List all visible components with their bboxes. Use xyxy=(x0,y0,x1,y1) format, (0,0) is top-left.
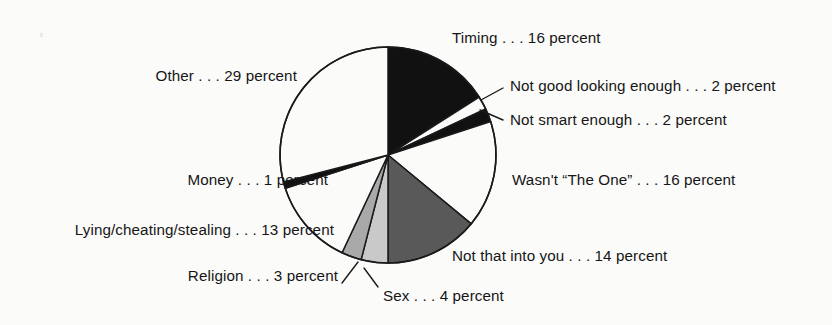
slice-label-money: Money . . . 1 percent xyxy=(187,172,328,189)
slice-label-other: Other . . . 29 percent xyxy=(156,68,298,85)
scan-artifact-speck xyxy=(40,33,43,37)
pie-chart-svg xyxy=(0,0,832,325)
leader-line-religion xyxy=(342,262,358,283)
slice-label-not-that-into-you: Not that into you . . . 14 percent xyxy=(452,248,667,265)
slice-label-timing: Timing . . . 16 percent xyxy=(452,30,601,47)
slice-label-sex: Sex . . . 4 percent xyxy=(383,288,504,305)
leader-line-not-good-looking xyxy=(481,88,503,100)
slice-label-lying-cheating-stealing: Lying/cheating/stealing . . . 13 percent xyxy=(75,222,334,239)
slice-label-not-smart: Not smart enough . . . 2 percent xyxy=(510,112,727,129)
slice-label-not-good-looking: Not good looking enough . . . 2 percent xyxy=(510,78,776,95)
pie-chart-figure: Timing . . . 16 percent Not good looking… xyxy=(0,0,832,325)
slice-label-religion: Religion . . . 3 percent xyxy=(188,268,338,285)
slice-label-wasnt-the-one: Wasn't “The One” . . . 16 percent xyxy=(512,172,735,189)
leader-line-sex xyxy=(364,268,378,287)
